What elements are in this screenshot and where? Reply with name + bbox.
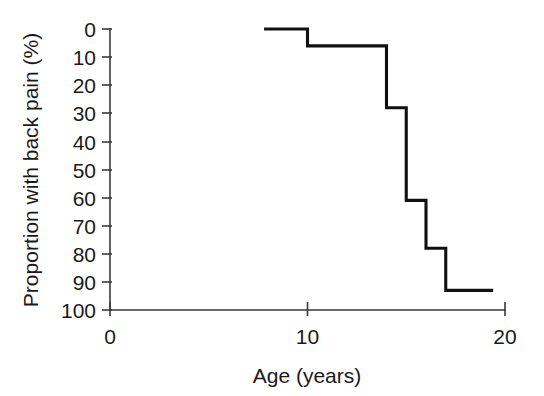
- y-axis-title: Proportion with back pain (%): [19, 33, 42, 307]
- y-tick-label-70: 70: [73, 215, 96, 238]
- chart-figure: 0 10 20 30 40 50 60 70 80 90 100 0 10 20…: [0, 0, 544, 396]
- y-tick-label-30: 30: [73, 102, 96, 125]
- y-axis-tick-labels: 0 10 20 30 40 50 60 70 80 90 100: [61, 18, 96, 322]
- step-chart: 0 10 20 30 40 50 60 70 80 90 100 0 10 20…: [0, 0, 544, 396]
- x-axis-ticks: [110, 302, 505, 316]
- y-tick-label-60: 60: [73, 187, 96, 210]
- back-pain-step-curve: [264, 29, 493, 290]
- y-tick-label-20: 20: [73, 74, 96, 97]
- y-tick-label-50: 50: [73, 159, 96, 182]
- y-tick-label-90: 90: [73, 271, 96, 294]
- x-tick-label-10: 10: [296, 325, 319, 348]
- y-tick-label-40: 40: [73, 131, 96, 154]
- y-tick-label-0: 0: [84, 18, 96, 41]
- x-tick-label-0: 0: [104, 325, 116, 348]
- y-tick-label-100: 100: [61, 299, 96, 322]
- x-tick-label-20: 20: [493, 325, 516, 348]
- x-axis-title: Age (years): [253, 364, 362, 387]
- y-tick-label-10: 10: [73, 46, 96, 69]
- x-axis-tick-labels: 0 10 20: [104, 325, 517, 348]
- y-tick-label-80: 80: [73, 243, 96, 266]
